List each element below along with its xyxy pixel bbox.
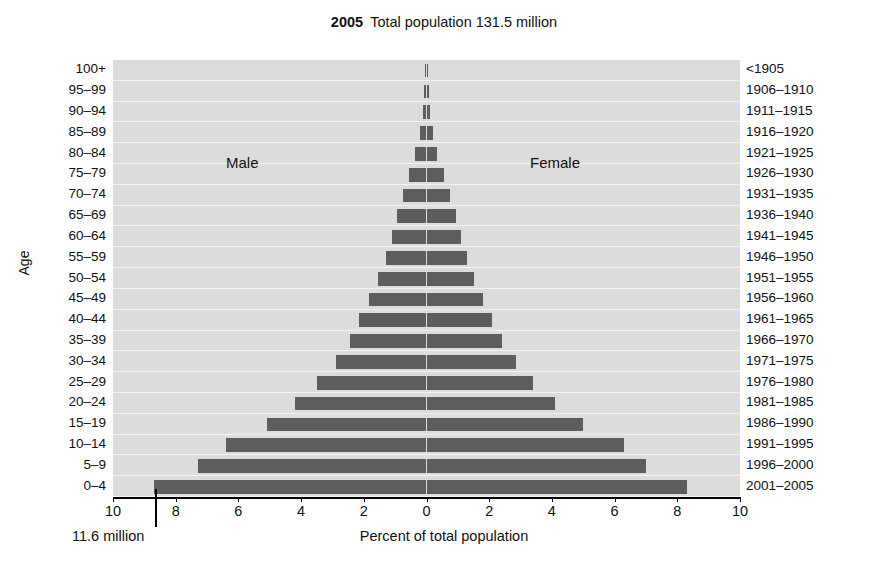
- bar-male: [267, 418, 427, 432]
- bar-female: [427, 251, 468, 265]
- bar-female: [427, 64, 429, 78]
- plot-area: [113, 60, 740, 497]
- bar-female: [427, 147, 438, 161]
- age-group-label: 80–84: [68, 145, 106, 160]
- gridline: [113, 371, 740, 372]
- bar-male: [378, 272, 427, 286]
- date-of-birth-label: 1921–1925: [746, 145, 814, 160]
- gridline: [113, 413, 740, 414]
- date-of-birth-label: 1966–1970: [746, 332, 814, 347]
- x-axis-tick-label: 8: [657, 503, 697, 519]
- female-legend-label: Female: [530, 154, 580, 171]
- gridline: [113, 267, 740, 268]
- pyramid-row: [113, 105, 740, 119]
- date-of-birth-label: 1981–1985: [746, 394, 814, 409]
- bar-female: [427, 397, 556, 411]
- age-label-column: 100+95–9990–9485–8980–8475–7970–7465–696…: [0, 60, 106, 497]
- gridline: [113, 475, 740, 476]
- age-group-label: 75–79: [68, 165, 106, 180]
- age-group-label: 45–49: [68, 290, 106, 305]
- date-of-birth-label: 2001–2005: [746, 478, 814, 493]
- bar-male: [392, 230, 426, 244]
- date-of-birth-label: 1911–1915: [746, 103, 813, 118]
- x-axis-tick: [364, 497, 365, 502]
- male-legend-label: Male: [226, 154, 259, 171]
- date-of-birth-label: <1905: [746, 61, 784, 76]
- gridline: [113, 309, 740, 310]
- gridline: [113, 454, 740, 455]
- gridline: [113, 288, 740, 289]
- gridline: [113, 330, 740, 331]
- pyramid-row: [113, 272, 740, 286]
- pyramid-row: [113, 397, 740, 411]
- bar-male: [386, 251, 427, 265]
- date-of-birth-label: 1951–1955: [746, 270, 814, 285]
- x-axis-tick-label: 2: [344, 503, 384, 519]
- x-axis-tick: [238, 497, 239, 502]
- population-pyramid-figure: 2005Total population 131.5 million Age D…: [0, 0, 888, 566]
- x-axis-tick: [740, 497, 741, 502]
- gridline: [113, 434, 740, 435]
- pyramid-row: [113, 438, 740, 452]
- age-group-label: 85–89: [68, 124, 106, 139]
- bar-male: [295, 397, 427, 411]
- pyramid-row: [113, 189, 740, 203]
- pyramid-row: [113, 459, 740, 473]
- bar-male: [359, 313, 426, 327]
- pyramid-row: [113, 147, 740, 161]
- pyramid-row: [113, 480, 740, 494]
- bar-female: [427, 272, 474, 286]
- age-group-label: 30–34: [68, 353, 106, 368]
- pyramid-row: [113, 126, 740, 140]
- bar-male: [403, 189, 427, 203]
- age-group-label: 60–64: [68, 228, 106, 243]
- age-group-label: 55–59: [68, 249, 106, 264]
- gridline: [113, 205, 740, 206]
- age-group-label: 100+: [76, 61, 106, 76]
- pyramid-row: [113, 293, 740, 307]
- bar-male: [415, 147, 427, 161]
- pyramid-row: [113, 168, 740, 182]
- x-axis-tick: [677, 497, 678, 502]
- bar-female: [427, 293, 483, 307]
- x-axis-tick-label: 10: [720, 503, 760, 519]
- x-axis-tick-label: 4: [281, 503, 321, 519]
- x-axis-tick: [176, 497, 177, 502]
- pyramid-row: [113, 230, 740, 244]
- bar-male: [154, 480, 427, 494]
- date-of-birth-label: 1996–2000: [746, 457, 814, 472]
- age-group-label: 40–44: [68, 311, 106, 326]
- x-axis-tick: [615, 497, 616, 502]
- x-axis-tick-label: 2: [469, 503, 509, 519]
- chart-title: 2005Total population 131.5 million: [0, 14, 888, 30]
- pyramid-row: [113, 334, 740, 348]
- x-axis-tick-label: 4: [532, 503, 572, 519]
- date-of-birth-label: 1936–1940: [746, 207, 814, 222]
- bar-male: [369, 293, 427, 307]
- bar-female: [427, 209, 457, 223]
- bar-female: [427, 459, 646, 473]
- x-axis-tick-label: 10: [93, 503, 133, 519]
- date-of-birth-label: 1986–1990: [746, 415, 814, 430]
- gridline: [113, 350, 740, 351]
- date-of-birth-label: 1916–1920: [746, 124, 814, 139]
- gridline: [113, 142, 740, 143]
- age-group-label: 95–99: [68, 82, 106, 97]
- age-group-label: 70–74: [68, 186, 106, 201]
- bar-female: [427, 126, 433, 140]
- x-axis-tick: [301, 497, 302, 502]
- date-of-birth-label: 1926–1930: [746, 165, 814, 180]
- age-group-label: 65–69: [68, 207, 106, 222]
- bar-female: [427, 334, 502, 348]
- date-of-birth-label-column: <19051906–19101911–19151916–19201921–192…: [746, 60, 876, 497]
- bar-female: [427, 168, 444, 182]
- date-of-birth-label: 1956–1960: [746, 290, 814, 305]
- bar-female: [427, 376, 534, 390]
- million-annotation-label: 11.6 million: [72, 528, 144, 544]
- bar-female: [427, 189, 451, 203]
- x-axis-tick: [427, 497, 428, 502]
- gridline: [113, 101, 740, 102]
- date-of-birth-label: 1906–1910: [746, 82, 814, 97]
- pyramid-row: [113, 64, 740, 78]
- bar-female: [427, 438, 625, 452]
